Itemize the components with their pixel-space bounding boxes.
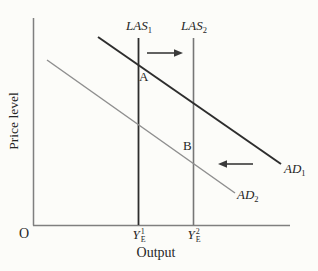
ye2-scripts: 2 E: [196, 228, 201, 243]
x-tick-ye1: Y 1 E: [125, 227, 153, 243]
left-arrow-head: [218, 160, 227, 168]
right-arrow-head: [174, 49, 183, 57]
las2-label: LAS2: [181, 19, 207, 37]
ye1-scripts: 1 E: [141, 228, 146, 243]
y-axis-title: Price level: [6, 76, 22, 166]
ad1-label: AD1: [284, 162, 306, 180]
x-tick-ye2: Y 2 E: [180, 227, 208, 243]
diagram-canvas: [0, 0, 318, 271]
las2-subscript: 2: [203, 25, 207, 35]
ye1-subscript: E: [141, 236, 146, 244]
right-arrow-icon: [147, 49, 183, 57]
point-a-label: A: [139, 70, 148, 84]
ye2-base: Y: [187, 227, 194, 243]
las1-label: LAS1: [126, 19, 152, 37]
ad1-subscript: 1: [301, 168, 305, 178]
las1-subscript: 1: [148, 25, 152, 35]
ye1-base: Y: [132, 227, 139, 243]
left-arrow-icon: [218, 160, 253, 168]
point-b-label: B: [183, 139, 192, 153]
ad2-subscript: 2: [254, 194, 258, 204]
x-axis-title: Output: [120, 245, 192, 261]
ye2-subscript: E: [196, 236, 201, 244]
ad2-label: AD2: [237, 188, 259, 206]
aggregate-demand-las-diagram: LAS1 LAS2 AD1 AD2 A B Price level O Y 1 …: [0, 0, 318, 271]
origin-label: O: [19, 227, 29, 241]
